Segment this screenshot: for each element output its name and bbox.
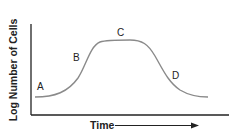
growth-curve xyxy=(35,40,208,97)
x-axis-label: Time xyxy=(90,119,114,131)
phase-label-b: B xyxy=(73,52,80,63)
growth-curve-diagram: Log Number of Cells A B C D Time xyxy=(0,0,236,137)
phase-label-c: C xyxy=(117,27,124,38)
y-axis-label: Log Number of Cells xyxy=(7,19,19,122)
phase-label-a: A xyxy=(37,81,44,92)
time-arrow-head-icon xyxy=(191,123,199,129)
phase-label-d: D xyxy=(172,70,179,81)
